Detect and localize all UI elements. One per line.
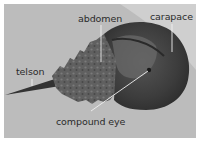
telson-label: telson bbox=[16, 67, 44, 77]
carapace-label: carapace bbox=[150, 12, 193, 22]
compound-eye-label: compound eye bbox=[56, 117, 125, 127]
abdomen-label: abdomen bbox=[78, 14, 122, 24]
